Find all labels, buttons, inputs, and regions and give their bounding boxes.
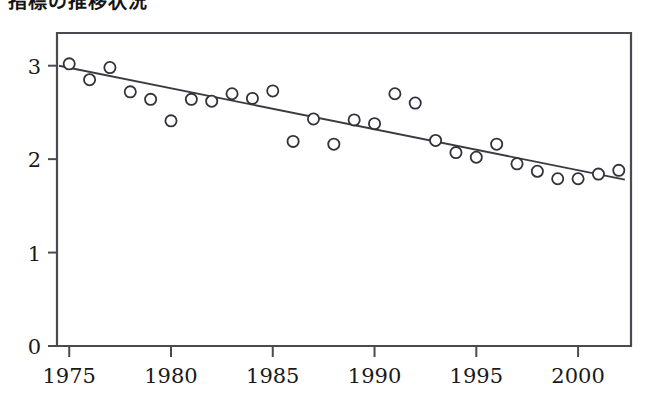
data-point-marker <box>532 166 543 177</box>
y-tick-label: 2 <box>28 148 41 172</box>
x-tick-label: 1980 <box>144 364 197 388</box>
data-point-marker <box>125 86 136 97</box>
plot-border <box>57 33 631 346</box>
data-point-marker <box>572 173 583 184</box>
data-point-marker <box>206 96 217 107</box>
regression-trend-line <box>59 66 625 180</box>
data-point-marker <box>430 135 441 146</box>
x-axis-tick-labels: 197519801985199019952000 <box>42 364 604 388</box>
x-tick-label: 1985 <box>246 364 299 388</box>
data-point-marker <box>349 114 360 125</box>
trend-line-group <box>59 66 625 180</box>
x-tick-label: 2000 <box>551 364 604 388</box>
data-point-marker <box>288 136 299 147</box>
y-axis-tick-labels: 0123 <box>28 55 41 359</box>
y-tick-label: 3 <box>28 55 41 79</box>
x-axis-ticks <box>69 346 578 357</box>
plot-frame <box>57 33 631 346</box>
data-point-marker <box>308 113 319 124</box>
data-point-marker <box>84 74 95 85</box>
data-point-marker <box>104 62 115 73</box>
y-tick-label: 0 <box>28 335 41 359</box>
data-point-marker <box>511 158 522 169</box>
x-tick-label: 1995 <box>450 364 503 388</box>
data-point-marker <box>247 93 258 104</box>
data-point-marker <box>552 173 563 184</box>
data-point-marker <box>165 115 176 126</box>
data-points-group <box>64 58 625 184</box>
y-tick-label: 1 <box>28 242 41 266</box>
data-point-marker <box>186 94 197 105</box>
data-point-marker <box>267 85 278 96</box>
chart-figure: 指標の推移状況 0123 197519801985199019952000 <box>0 0 652 414</box>
data-point-marker <box>369 118 380 129</box>
data-point-marker <box>64 58 75 69</box>
data-point-marker <box>389 88 400 99</box>
data-point-marker <box>593 168 604 179</box>
data-point-marker <box>145 94 156 105</box>
data-point-marker <box>410 97 421 108</box>
data-point-marker <box>328 139 339 150</box>
data-point-marker <box>226 88 237 99</box>
data-point-marker <box>491 139 502 150</box>
x-tick-label: 1975 <box>42 364 95 388</box>
scatter-plot-canvas: 0123 197519801985199019952000 <box>0 0 652 414</box>
data-point-marker <box>450 147 461 158</box>
y-axis-ticks <box>48 66 57 346</box>
data-point-marker <box>471 152 482 163</box>
data-point-marker <box>613 165 624 176</box>
x-tick-label: 1990 <box>348 364 401 388</box>
